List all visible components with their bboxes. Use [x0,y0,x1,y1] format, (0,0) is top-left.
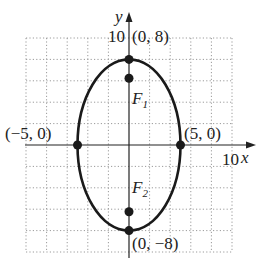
y-axis-arrow-icon [126,12,133,22]
label-left-vertex: (−5, 0) [5,124,51,143]
label-right-vertex: (5, 0) [184,124,221,143]
label-top-vertex: (0, 8) [132,27,169,46]
y-tick-label: 10 [108,27,125,46]
point-top-vertex [125,55,134,64]
label-focus-1: F1 [131,89,148,110]
axes [25,12,256,258]
x-axis-label: x [240,148,249,167]
label-bottom-vertex: (0, −8) [132,234,178,253]
label-focus-2: F2 [131,178,148,199]
ellipse-diagram: y 10 (0, 8) F1 (−5, 0) (5, 0) 10 x F2 (0… [0,0,261,260]
point-left-vertex [73,141,82,150]
labels: y 10 (0, 8) F1 (−5, 0) (5, 0) 10 x F2 (0… [5,7,249,253]
x-tick-label: 10 [222,150,239,169]
point-focus-1 [125,74,134,83]
y-axis-label: y [113,7,123,26]
point-focus-2 [125,207,134,216]
